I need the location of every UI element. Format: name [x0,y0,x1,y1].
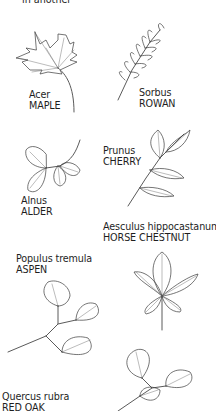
common-name: ALDER [21,206,53,217]
label-alder: Alnus ALDER [21,195,53,217]
label-aspen: Populus tremula ASPEN [16,253,92,275]
latin-name: Alnus [21,195,53,206]
common-name: HORSE CHESTNUT [103,232,216,243]
label-rowan: Sorbus ROWAN [139,87,175,109]
common-name: ASPEN [16,264,92,275]
latin-name: Acer [29,89,61,100]
horse-chestnut-leaf-drawing [134,252,198,330]
common-name: CHERRY [103,156,141,167]
latin-name: Populus tremula [16,253,92,264]
label-red-oak: Quercus rubra RED OAK [2,391,69,411]
latin-name: Aesculus hippocastanum [103,221,216,232]
common-name: RED OAK [2,402,69,411]
alder-leaf-drawing [26,140,80,192]
cherry-leaf-drawing [128,130,190,206]
latin-name: Quercus rubra [2,391,69,402]
common-name: MAPLE [29,100,61,111]
label-horse-chestnut: Aesculus hippocastanum HORSE CHESTNUT [103,221,216,243]
latin-name: Sorbus [139,87,175,98]
label-maple: Acer MAPLE [29,89,61,111]
red-oak-leaf-drawing [118,349,192,411]
common-name: ROWAN [139,98,175,109]
latin-name: Prunus [103,145,141,156]
aspen-leaf-drawing [8,281,99,355]
label-cherry: Prunus CHERRY [103,145,141,167]
